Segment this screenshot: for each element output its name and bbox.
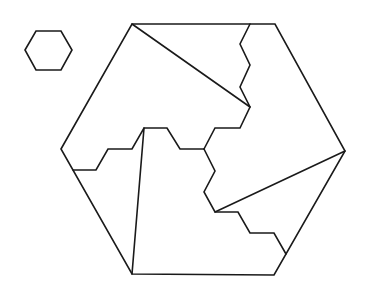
cut-right-diagonal xyxy=(215,151,345,212)
dissection-cuts xyxy=(73,24,345,274)
cut-top-diagonal xyxy=(132,24,250,107)
diagram-canvas xyxy=(0,0,365,304)
small-hexagon-icon xyxy=(25,31,72,70)
cut-left-zigzag xyxy=(73,128,204,170)
cut-left-vertical xyxy=(132,128,144,274)
cut-top-zigzag xyxy=(204,24,250,149)
cut-lower-zigzag xyxy=(204,149,286,254)
